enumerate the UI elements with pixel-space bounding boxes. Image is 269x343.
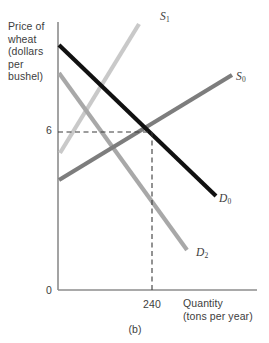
x-axis-label-line-1: Quantity [183,297,223,309]
curve-label-d0-letter: D [219,192,227,204]
curve-label-s1: S1 [160,10,170,22]
curve-label-d2-subscript: 2 [205,251,209,260]
y-axis-label-line-2: wheat [8,33,37,45]
curve-label-s1-subscript: 1 [166,15,170,24]
curve-d2 [59,73,187,250]
y-axis-label-line-3: (dollars [8,45,43,57]
curve-d0 [59,45,216,196]
x-axis-label-line-2: (tons per year) [183,310,253,322]
curve-label-s0-letter: S [236,70,242,82]
y-axis-label-line-1: Price of [8,20,44,32]
x-axis-label: Quantity(tons per year) [183,297,269,322]
axis-origin-label: 0 [38,284,52,297]
curve-label-s1-letter: S [160,10,166,22]
y-axis-label-line-4: per [8,58,23,70]
y-axis-label-line-5: bushel) [8,70,43,82]
curve-label-s0: S0 [236,70,246,82]
y-axis-tick-6: 6 [38,124,52,137]
panel-caption: (b) [110,323,160,336]
x-axis-tick-240: 240 [133,298,171,311]
y-axis-label: Price ofwheat(dollarsperbushel) [8,20,60,83]
curve-label-s0-subscript: 0 [242,75,246,84]
curve-label-d2-letter: D [196,246,204,258]
curve-label-d2: D2 [196,246,208,258]
curve-label-d0-subscript: 0 [228,197,232,206]
figure-panel-b: Price ofwheat(dollarsperbushel) 6 0 240 … [0,0,269,343]
curve-label-d0: D0 [219,192,231,204]
